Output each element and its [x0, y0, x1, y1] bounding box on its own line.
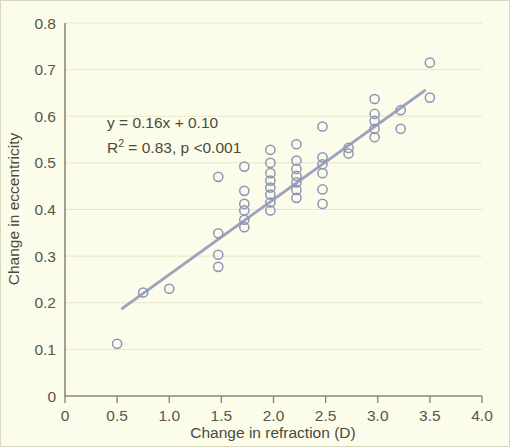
y-tick-label: 0	[47, 388, 56, 405]
x-tick-label: 2.0	[263, 407, 285, 424]
chart-figure: 00.51.01.52.02.53.03.54.0 00.10.20.30.40…	[0, 0, 510, 447]
scatter-plot: 00.51.01.52.02.53.03.54.0 00.10.20.30.40…	[1, 1, 510, 447]
data-point	[113, 339, 122, 348]
data-point	[292, 140, 301, 149]
x-tick-label: 4.0	[471, 407, 493, 424]
data-point	[240, 162, 249, 171]
y-tick-label: 0.7	[34, 61, 56, 78]
data-point	[396, 124, 405, 133]
y-tick-label: 0.6	[34, 108, 56, 125]
x-axis-title: Change in refraction (D)	[190, 424, 355, 441]
x-tick-label: 0.5	[106, 407, 128, 424]
data-point	[425, 93, 434, 102]
data-point	[425, 58, 434, 67]
x-tick-label: 3.0	[367, 407, 389, 424]
data-point	[214, 172, 223, 181]
data-point	[318, 122, 327, 131]
data-point	[214, 250, 223, 259]
y-tick-label: 0.2	[34, 294, 56, 311]
gridlines	[65, 23, 482, 349]
data-point	[214, 262, 223, 271]
data-point	[318, 199, 327, 208]
x-axis-ticks: 00.51.01.52.02.53.03.54.0	[61, 396, 493, 424]
data-point	[318, 169, 327, 178]
data-points	[113, 58, 435, 348]
regression-equation-label: y = 0.16x + 0.10	[107, 114, 219, 131]
y-tick-label: 0.3	[34, 248, 56, 265]
data-point	[240, 199, 249, 208]
y-tick-label: 0.4	[34, 201, 56, 218]
r-squared-label: R2 = 0.83, p <0.001	[107, 137, 241, 156]
x-tick-label: 0	[61, 407, 70, 424]
data-point	[240, 186, 249, 195]
y-tick-label: 0.8	[34, 15, 56, 32]
data-point	[165, 284, 174, 293]
y-tick-label: 0.5	[34, 154, 56, 171]
data-point	[370, 94, 379, 103]
x-tick-label: 1.0	[158, 407, 180, 424]
y-axis-title: Change in eccentricity	[5, 133, 22, 286]
data-point	[266, 145, 275, 154]
x-tick-label: 3.5	[419, 407, 441, 424]
x-tick-label: 2.5	[315, 407, 337, 424]
y-axis-ticks: 00.10.20.30.40.50.60.70.8	[34, 15, 56, 405]
data-point	[318, 153, 327, 162]
data-point	[370, 109, 379, 118]
y-tick-label: 0.1	[34, 341, 56, 358]
data-point	[318, 185, 327, 194]
data-point	[214, 229, 223, 238]
x-tick-label: 1.5	[211, 407, 233, 424]
